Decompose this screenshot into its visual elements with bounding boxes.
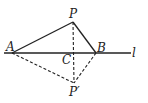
segment-pb: [73, 22, 96, 53]
geometry-diagram: A P B C P′ l: [0, 0, 148, 103]
segment-bp-prime: [74, 53, 96, 83]
label-p-prime: P′: [68, 85, 80, 99]
label-b: B: [96, 41, 106, 55]
segment-pp-prime: [73, 22, 74, 83]
label-c: C: [62, 53, 71, 67]
label-p: P: [68, 7, 78, 21]
segment-ap: [12, 22, 73, 53]
label-a: A: [5, 40, 15, 54]
label-line-l: l: [132, 46, 136, 60]
